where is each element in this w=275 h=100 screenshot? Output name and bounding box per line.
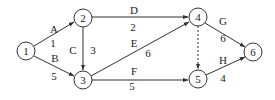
edge-d-duration: 2 xyxy=(130,21,136,33)
edge-e-duration: 6 xyxy=(145,47,151,59)
node-3-label: 3 xyxy=(80,74,86,86)
edge-a-activity: A xyxy=(50,23,58,35)
edge-e-activity: E xyxy=(131,37,138,49)
node-6: 6 xyxy=(244,43,262,61)
edge-h-activity: H xyxy=(219,54,227,66)
edge-f-duration: 5 xyxy=(129,80,135,92)
node-5-label: 5 xyxy=(195,73,201,85)
edge-b-activity: B xyxy=(51,52,58,64)
node-5: 5 xyxy=(189,70,207,88)
edge-g-duration: 6 xyxy=(220,32,226,44)
edge-f-activity: F xyxy=(131,65,137,77)
node-2: 2 xyxy=(74,9,92,27)
node-1-label: 1 xyxy=(23,45,29,57)
node-6-label: 6 xyxy=(250,46,256,58)
node-1: 1 xyxy=(17,42,35,60)
node-3: 3 xyxy=(74,71,92,89)
activity-network-diagram: 1 2 3 4 5 6 A 1 B 5 C 3 D 2 E 6 F 5 G 6 … xyxy=(0,0,275,100)
edge-d-activity: D xyxy=(130,4,138,16)
edge-c-duration: 3 xyxy=(90,44,96,56)
edge-a-duration: 1 xyxy=(50,37,56,49)
node-4: 4 xyxy=(189,8,207,26)
node-4-label: 4 xyxy=(195,11,201,23)
edge-g-activity: G xyxy=(219,15,227,27)
edge-h-duration: 4 xyxy=(220,72,226,84)
node-2-label: 2 xyxy=(80,12,86,24)
edge-e xyxy=(91,22,189,76)
edge-c-activity: C xyxy=(69,44,76,56)
edge-b-duration: 5 xyxy=(51,70,57,82)
